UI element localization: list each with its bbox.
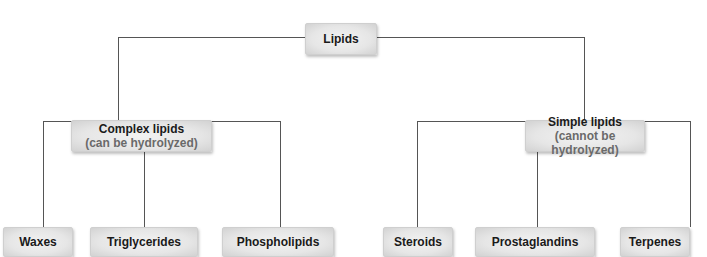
node-complex-label: Complex lipids bbox=[99, 122, 184, 136]
node-terpenes: Terpenes bbox=[620, 227, 690, 257]
connector-root-left-v bbox=[118, 37, 119, 124]
connector-complex-mid-v bbox=[144, 152, 145, 227]
connector-root-right-v bbox=[584, 37, 585, 124]
node-simple-sub: (cannot be hydrolyzed) bbox=[526, 129, 644, 157]
node-complex-sub: (can be hydrolyzed) bbox=[85, 136, 198, 150]
node-lipids-label: Lipids bbox=[323, 32, 358, 46]
node-triglycerides: Triglycerides bbox=[90, 227, 198, 257]
node-phospholipids: Phospholipids bbox=[222, 227, 334, 257]
node-lipids: Lipids bbox=[305, 23, 377, 55]
connector-simple-left-h bbox=[417, 121, 527, 122]
connector-complex-left-v bbox=[43, 121, 44, 227]
node-steroids: Steroids bbox=[383, 227, 453, 257]
node-complex-lipids: Complex lipids (can be hydrolyzed) bbox=[71, 120, 212, 152]
connector-complex-right-h bbox=[210, 121, 280, 122]
leaf-label: Terpenes bbox=[629, 235, 681, 249]
connector-simple-right-v bbox=[690, 121, 691, 227]
connector-root-right-h bbox=[376, 37, 584, 38]
node-simple-label: Simple lipids bbox=[548, 115, 622, 129]
connector-simple-left-v bbox=[417, 121, 418, 227]
node-waxes: Waxes bbox=[3, 227, 73, 257]
node-prostaglandins: Prostaglandins bbox=[475, 227, 595, 257]
connector-complex-left-h bbox=[43, 121, 73, 122]
leaf-label: Triglycerides bbox=[107, 235, 181, 249]
leaf-label: Steroids bbox=[394, 235, 442, 249]
leaf-label: Prostaglandins bbox=[492, 235, 579, 249]
node-simple-lipids: Simple lipids (cannot be hydrolyzed) bbox=[525, 120, 645, 152]
connector-simple-right-h bbox=[640, 121, 690, 122]
connector-simple-mid-v bbox=[537, 152, 538, 227]
connector-root-left-h bbox=[118, 37, 308, 38]
leaf-label: Phospholipids bbox=[237, 235, 320, 249]
leaf-label: Waxes bbox=[19, 235, 57, 249]
connector-complex-right-v bbox=[280, 121, 281, 227]
